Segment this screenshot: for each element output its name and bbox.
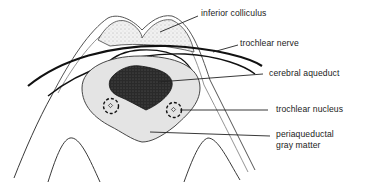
label-inferior-colliculus: inferior colliculus bbox=[201, 8, 266, 18]
left-outer-contour bbox=[14, 95, 52, 178]
midbrain-diagram bbox=[0, 0, 370, 187]
label-cerebral-aqueduct: cerebral aqueduct bbox=[269, 68, 340, 78]
label-trochlear-nerve: trochlear nerve bbox=[240, 38, 299, 48]
right-lower-lobe bbox=[184, 138, 240, 182]
label-periaqueductal-line1: periaqueductal bbox=[276, 129, 334, 139]
label-trochlear-nucleus: trochlear nucleus bbox=[276, 104, 343, 114]
label-periaqueductal-line2: gray matter bbox=[276, 140, 321, 150]
left-lower-lobe bbox=[48, 138, 100, 182]
